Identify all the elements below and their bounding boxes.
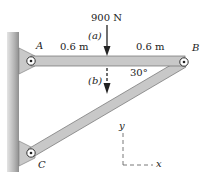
point-a-label: A — [36, 41, 43, 51]
position-b-label: (b) — [88, 76, 102, 86]
angle-label: 30° — [130, 68, 148, 78]
pin-b — [180, 58, 188, 66]
position-a-label: (a) — [88, 31, 102, 41]
load-arrow-b — [104, 68, 111, 94]
axes-icon — [123, 133, 153, 165]
y-axis-label: y — [119, 121, 125, 131]
wall — [7, 32, 19, 172]
point-c-label: C — [38, 160, 46, 170]
x-axis-label: x — [156, 159, 162, 169]
dimension-left: 0.6 m — [60, 42, 89, 52]
load-label: 900 N — [91, 13, 122, 23]
truss-diagram — [0, 0, 207, 184]
load-arrow-a — [104, 25, 111, 56]
dimension-right: 0.6 m — [136, 42, 165, 52]
pin-c — [27, 149, 35, 157]
member-ab — [31, 56, 185, 66]
pin-a — [27, 57, 35, 65]
point-b-label: B — [192, 43, 199, 53]
